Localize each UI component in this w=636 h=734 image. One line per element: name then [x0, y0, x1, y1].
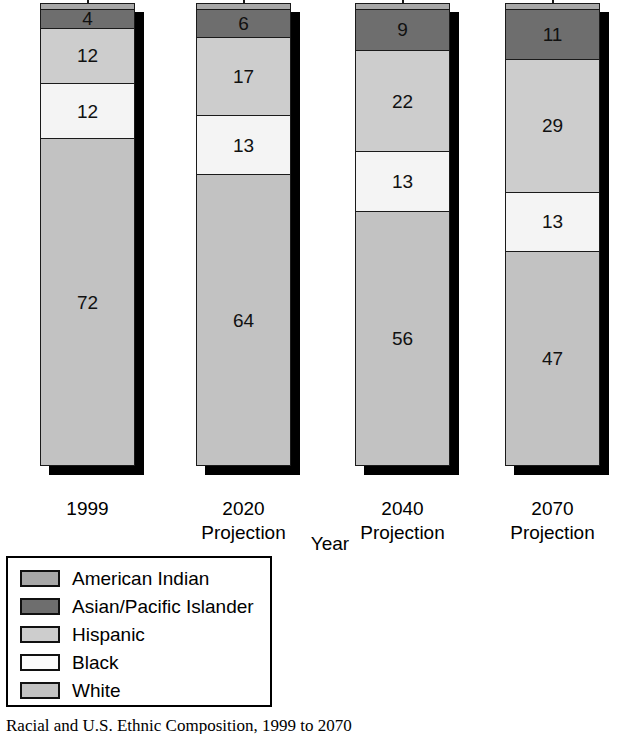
x-axis-label-year: 2070: [480, 497, 625, 521]
bar-segment-value: 29: [542, 116, 563, 135]
legend-label: American Indian: [72, 569, 209, 588]
legend-item-1[interactable]: Asian/Pacific Islander: [20, 592, 270, 620]
bar-segment-value: 12: [77, 46, 98, 65]
bar-segment-value: 9: [397, 20, 408, 39]
x-axis-label-1999: 1999: [15, 497, 160, 521]
bar-segment: 17: [197, 38, 290, 116]
legend-label: Black: [72, 653, 118, 672]
bar-segment: 56: [356, 212, 449, 465]
bar-segment-value: 6: [238, 14, 249, 33]
legend-item-4[interactable]: White: [20, 676, 270, 704]
legend-item-2[interactable]: Hispanic: [20, 620, 270, 648]
x-axis-label-year: 2020: [171, 497, 316, 521]
bar-segment: 9: [356, 10, 449, 52]
legend: American IndianAsian/Pacific IslanderHis…: [6, 556, 272, 707]
bar-segment-value: 13: [233, 136, 254, 155]
x-axis-label-2070: 2070Projection: [480, 497, 625, 545]
bar-stack: 11291347: [505, 3, 600, 466]
bar-segment-value: 13: [392, 172, 413, 191]
figure-caption: Racial and U.S. Ethnic Composition, 1999…: [6, 716, 626, 734]
bar-segment-value: 4: [82, 10, 93, 29]
legend-item-0[interactable]: American Indian: [20, 564, 270, 592]
bar-stack: 6171364: [196, 3, 291, 466]
x-axis-title: Year: [270, 533, 390, 555]
bar-segment: 11: [506, 10, 599, 61]
bar-segment: 22: [356, 51, 449, 152]
bar-segment: 12: [41, 29, 134, 84]
bar-segment-value: 22: [392, 92, 413, 111]
bar-segment: 13: [356, 152, 449, 212]
bar-stack: 9221356: [355, 3, 450, 466]
bar-2020: 6171364: [196, 3, 291, 466]
bar-segment: 12: [41, 84, 134, 139]
legend-item-3[interactable]: Black: [20, 648, 270, 676]
bar-segment: 4: [41, 10, 134, 29]
bar-segment-value: 56: [392, 329, 413, 348]
bar-segment: 29: [506, 60, 599, 192]
legend-label: Asian/Pacific Islander: [72, 597, 254, 616]
bar-segment-value: 72: [77, 293, 98, 312]
x-axis-label-projection: Projection: [480, 521, 625, 545]
bar-segment-value: 64: [233, 311, 254, 330]
bar-2040: 9221356: [355, 3, 450, 466]
bar-2070: 11291347: [505, 3, 600, 466]
bar-segment-value: 12: [77, 102, 98, 121]
x-axis-label-year: 2040: [330, 497, 475, 521]
bar-segment: 13: [506, 193, 599, 253]
bar-segment-value: 13: [542, 212, 563, 231]
bar-stack: 4121272: [40, 3, 135, 466]
bar-segment-value: 17: [233, 67, 254, 86]
legend-label: Hispanic: [72, 625, 145, 644]
bar-segment-value: 11: [543, 25, 563, 44]
legend-swatch-icon: [20, 570, 60, 587]
bar-segment: 13: [197, 116, 290, 176]
stacked-bar-chart: Percent of population 412127261713649221…: [0, 0, 636, 490]
legend-swatch-icon: [20, 598, 60, 615]
bar-segment: 6: [197, 10, 290, 38]
legend-swatch-icon: [20, 682, 60, 699]
legend-swatch-icon: [20, 626, 60, 643]
x-axis-label-year: 1999: [15, 497, 160, 521]
bar-segment: 47: [506, 252, 599, 465]
legend-label: White: [72, 681, 121, 700]
bar-1999: 4121272: [40, 3, 135, 466]
legend-swatch-icon: [20, 654, 60, 671]
bar-segment: 64: [197, 175, 290, 465]
bar-segment-value: 47: [542, 349, 563, 368]
bar-segment: 72: [41, 139, 134, 465]
